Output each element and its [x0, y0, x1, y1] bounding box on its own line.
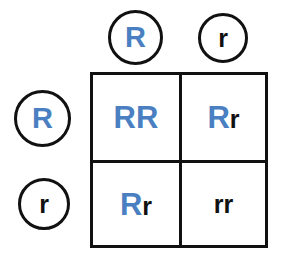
genotype-r0c1-allele-1: R: [207, 102, 229, 133]
punnett-square-diagram: R r R r R R R r R r: [0, 0, 281, 268]
genotype-r0c0: R R: [114, 102, 159, 133]
punnett-cell-r0c0: R R: [93, 75, 179, 160]
left-gamete-circle-1: R: [14, 90, 71, 147]
punnett-cell-r0c1: R r: [179, 75, 265, 160]
punnett-grid: R R R r R r r r: [90, 72, 268, 248]
genotype-r1c0-allele-2: r: [142, 194, 152, 219]
top-gamete-label-1: R: [125, 23, 146, 52]
punnett-cell-r1c0: R r: [93, 160, 179, 245]
genotype-r1c1-allele-2: r: [224, 192, 234, 217]
genotype-r0c0-allele-1: R: [114, 102, 136, 133]
genotype-r1c1-allele-1: r: [214, 192, 224, 217]
top-gamete-circle-2: r: [198, 13, 248, 63]
genotype-r0c1-allele-2: r: [230, 107, 240, 132]
top-gamete-label-2: r: [218, 26, 228, 51]
genotype-r1c1: r r: [214, 192, 233, 217]
genotype-r1c0: R r: [120, 189, 152, 220]
left-gamete-label-1: R: [32, 104, 53, 133]
punnett-cell-r1c1: r r: [179, 160, 265, 245]
genotype-r1c0-allele-1: R: [120, 189, 142, 220]
left-gamete-circle-2: r: [18, 178, 70, 230]
left-gamete-label-2: r: [39, 192, 49, 217]
genotype-r0c0-allele-2: R: [136, 102, 158, 133]
genotype-r0c1: R r: [207, 102, 239, 133]
top-gamete-circle-1: R: [108, 10, 163, 65]
